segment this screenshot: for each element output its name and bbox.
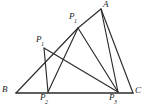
segment-r-to-p3 bbox=[44, 48, 118, 92]
subscript-r: 1 bbox=[41, 41, 44, 47]
segment-r-to-p2 bbox=[44, 48, 48, 92]
vertex-label-C: C bbox=[135, 86, 141, 95]
vertex-label-A: A bbox=[103, 0, 109, 9]
segment-a-to-p3 bbox=[101, 9, 118, 92]
segment-side-ac bbox=[101, 9, 133, 93]
vertex-label-P1: P1 bbox=[69, 12, 78, 23]
vertex-label-R: P1 bbox=[36, 35, 45, 46]
vertex-label-B: B bbox=[2, 85, 8, 94]
subscript-3: 3 bbox=[114, 99, 117, 105]
subscript-1: 1 bbox=[74, 18, 77, 24]
vertex-label-P2: P2 bbox=[40, 93, 49, 104]
segment-a-to-p2 bbox=[78, 9, 101, 28]
segment-p1-to-p2 bbox=[48, 28, 78, 92]
vertex-label-P3: P3 bbox=[109, 93, 118, 104]
subscript-2: 2 bbox=[45, 99, 48, 105]
geometry-figure: A B C P1 P2 P3 P1 bbox=[0, 0, 150, 112]
